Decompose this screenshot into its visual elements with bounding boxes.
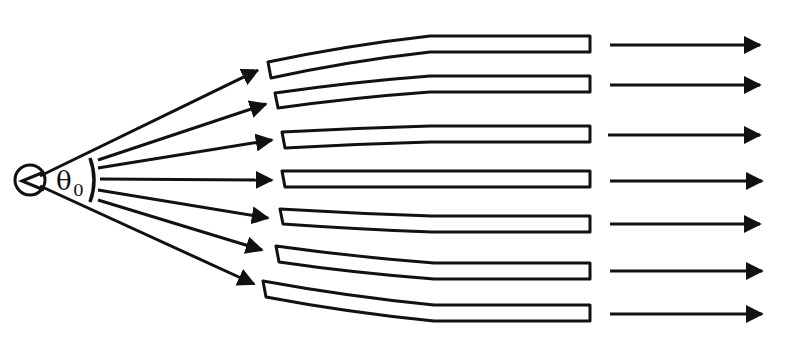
light-guide-tubes — [263, 36, 590, 321]
light-guide-tube-7 — [263, 281, 590, 321]
light-guide-tube-5 — [280, 209, 590, 232]
output-arrows — [608, 45, 762, 314]
fan-arrows — [40, 70, 272, 284]
light-guide-tube-6 — [276, 246, 590, 279]
fan-arrow-3 — [98, 140, 272, 168]
fan-arrow-4 — [100, 179, 272, 180]
fan-arrow-7 — [40, 186, 254, 284]
light-guide-tube-2 — [275, 76, 590, 108]
fan-arrow-2 — [98, 104, 266, 160]
fan-arrow-5 — [98, 190, 268, 218]
cropped-page-header — [480, 0, 780, 5]
diagram-figure: θ 0 — [0, 0, 787, 340]
light-guide-tube-4 — [282, 171, 590, 187]
point-source — [15, 165, 45, 195]
light-guide-tube-1 — [268, 36, 590, 78]
light-guide-diagram: θ 0 — [0, 0, 787, 340]
angle-arc-icon — [90, 158, 94, 202]
source-circle-icon — [15, 165, 45, 195]
theta-subscript: 0 — [73, 180, 84, 200]
light-guide-tube-3 — [282, 126, 590, 148]
theta-symbol: θ — [56, 166, 72, 196]
